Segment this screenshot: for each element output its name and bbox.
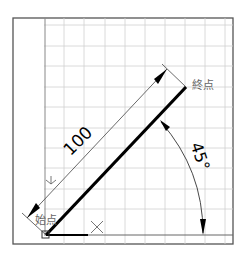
- drawing-canvas: 100 45° 終点 始点: [0, 0, 241, 254]
- start-point-label: 始点: [35, 213, 57, 227]
- outer-frame: [13, 18, 233, 244]
- end-point-label: 終点: [192, 78, 214, 92]
